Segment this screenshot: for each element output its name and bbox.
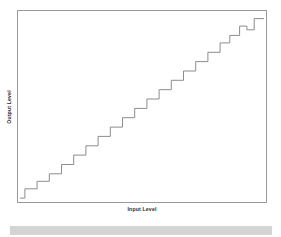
- y-axis-label: Output Level: [6, 90, 12, 124]
- step-curve-line: [20, 19, 264, 199]
- plot-area: [17, 10, 267, 203]
- x-axis-label: Input Level: [17, 206, 267, 212]
- step-curve-svg: [18, 11, 266, 202]
- bottom-gray-bar: [10, 226, 272, 235]
- y-axis-label-wrapper: Output Level: [0, 10, 17, 203]
- quantization-transfer-chart: Input Level Output Level: [0, 0, 281, 237]
